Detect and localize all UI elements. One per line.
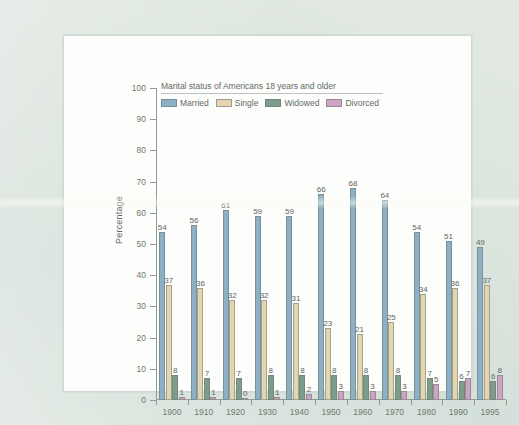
bar[interactable]: 23: [325, 328, 331, 400]
bar[interactable]: 6: [459, 381, 465, 400]
bar[interactable]: 59: [255, 216, 261, 400]
bar[interactable]: 3: [370, 391, 376, 400]
bar[interactable]: 7: [465, 378, 471, 400]
bar-value-label: 66: [317, 185, 326, 194]
plot-area: 0102030405060708090100 19001910192019301…: [156, 88, 506, 400]
bar-value-label: 8: [498, 366, 502, 375]
bar[interactable]: 2: [306, 394, 312, 400]
bar[interactable]: 1: [179, 397, 185, 400]
y-tick-label: 10: [137, 364, 146, 374]
bar-value-label: 64: [380, 191, 389, 200]
legend-swatch-icon: [161, 99, 177, 107]
bar-value-label: 59: [253, 207, 262, 216]
bar-value-label: 8: [173, 366, 177, 375]
bar[interactable]: 7: [204, 378, 210, 400]
bar[interactable]: 54: [159, 232, 165, 400]
bar-value-label: 7: [205, 369, 209, 378]
bar[interactable]: 7: [427, 378, 433, 400]
bar[interactable]: 8: [363, 375, 369, 400]
bar[interactable]: 54: [414, 232, 420, 400]
bar[interactable]: 1: [210, 397, 216, 400]
bar[interactable]: 34: [420, 294, 426, 400]
legend-item-widowed[interactable]: Widowed: [265, 98, 319, 108]
x-tick-label: 1920: [226, 407, 245, 417]
bar[interactable]: 36: [452, 288, 458, 400]
y-tick: 40: [150, 275, 156, 276]
bar[interactable]: 51: [446, 241, 452, 400]
bar-value-label: 1: [211, 388, 215, 397]
bar[interactable]: 66: [318, 194, 324, 400]
bar[interactable]: 59: [286, 216, 292, 400]
bar[interactable]: 3: [401, 391, 407, 400]
bar[interactable]: 5: [433, 384, 439, 400]
bar[interactable]: 25: [388, 322, 394, 400]
chart-panel: Percentage 0102030405060708090100 190019…: [63, 35, 472, 392]
bar[interactable]: 64: [382, 200, 388, 400]
bar-value-label: 7: [427, 369, 431, 378]
bar-value-label: 7: [237, 369, 241, 378]
bar-group: 593182: [286, 88, 312, 400]
bar[interactable]: 32: [229, 300, 235, 400]
bar-value-label: 21: [355, 325, 364, 334]
bar[interactable]: 8: [268, 375, 274, 400]
x-tick: [442, 400, 443, 405]
bar[interactable]: 8: [497, 375, 503, 400]
y-tick-label: 90: [137, 114, 146, 124]
bar[interactable]: 68: [350, 188, 356, 400]
bar-value-label: 54: [412, 223, 421, 232]
x-tick-label: 1900: [162, 407, 181, 417]
x-tick-label: 1960: [353, 407, 372, 417]
bar[interactable]: 7: [236, 378, 242, 400]
bar[interactable]: 0: [242, 398, 248, 400]
x-tick-label: 1950: [322, 407, 341, 417]
y-tick: 100: [150, 88, 156, 89]
bar[interactable]: 49: [477, 247, 483, 400]
bar[interactable]: 56: [191, 225, 197, 400]
bar[interactable]: 3: [338, 391, 344, 400]
y-tick-label: 60: [137, 208, 146, 218]
bar-value-label: 32: [228, 291, 237, 300]
bar[interactable]: 8: [331, 375, 337, 400]
legend-item-single[interactable]: Single: [216, 98, 259, 108]
bar[interactable]: 37: [166, 285, 172, 400]
bar-value-label: 6: [491, 372, 495, 381]
x-tick-label: 1930: [258, 407, 277, 417]
y-tick: 10: [150, 369, 156, 370]
x-tick: [506, 400, 507, 405]
bar[interactable]: 8: [172, 375, 178, 400]
bar[interactable]: 61: [223, 210, 229, 400]
bar-value-label: 0: [243, 389, 247, 398]
bar[interactable]: 32: [261, 300, 267, 400]
y-tick-label: 20: [137, 333, 146, 343]
x-tick-label: 1990: [449, 407, 468, 417]
bar[interactable]: 36: [197, 288, 203, 400]
y-axis-title: Percentage: [114, 196, 124, 244]
bar-group: 613270: [223, 88, 249, 400]
bar[interactable]: 1: [274, 397, 280, 400]
x-tick: [315, 400, 316, 405]
y-tick-label: 30: [137, 301, 146, 311]
bar-value-label: 5: [434, 375, 438, 384]
x-tick: [347, 400, 348, 405]
bar[interactable]: 8: [395, 375, 401, 400]
bar-group: 543781: [159, 88, 185, 400]
bar-value-label: 68: [349, 179, 358, 188]
legend-item-married[interactable]: Married: [161, 98, 209, 108]
bar[interactable]: 6: [490, 381, 496, 400]
bar[interactable]: 8: [299, 375, 305, 400]
y-tick: 30: [150, 306, 156, 307]
bar-value-label: 37: [164, 276, 173, 285]
y-tick: 90: [150, 119, 156, 120]
bar-group: 513667: [446, 88, 472, 400]
x-tick: [379, 400, 380, 405]
legend: Marital status of Americans 18 years and…: [161, 81, 383, 108]
y-tick: 20: [150, 338, 156, 339]
legend-label: Widowed: [284, 98, 319, 108]
legend-item-divorced[interactable]: Divorced: [326, 98, 379, 108]
bar-value-label: 23: [323, 319, 332, 328]
bar-value-label: 32: [260, 291, 269, 300]
bar[interactable]: 37: [484, 285, 490, 400]
bar[interactable]: 21: [357, 334, 363, 400]
bar[interactable]: 31: [293, 303, 299, 400]
bar-value-label: 25: [387, 313, 396, 322]
